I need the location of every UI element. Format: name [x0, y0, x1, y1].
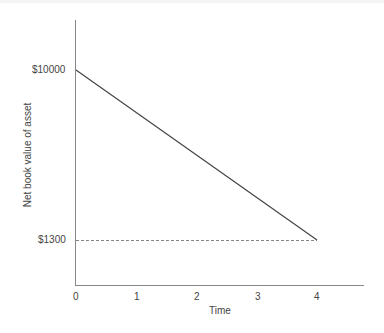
x-axis-label: Time [209, 305, 231, 316]
x-tick-2: 2 [194, 291, 200, 302]
x-tick-4: 4 [314, 291, 320, 302]
y-tick-10000: $10000 [32, 64, 65, 75]
depreciation-line [76, 70, 317, 240]
x-tick-1: 1 [134, 291, 140, 302]
y-axis-label: Net book value of asset [22, 103, 33, 208]
x-tick-0: 0 [73, 291, 79, 302]
y-tick-1300: $1300 [38, 234, 66, 245]
chart-canvas [0, 0, 384, 333]
x-tick-3: 3 [255, 291, 261, 302]
